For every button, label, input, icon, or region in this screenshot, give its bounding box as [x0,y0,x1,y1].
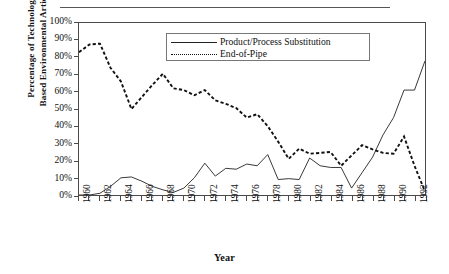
x-tick-label: 1962 [103,184,113,203]
x-tick-mark [99,196,100,201]
x-tick-mark [288,196,289,201]
dotted-line-key-icon [171,54,217,55]
x-tick-label: 1964 [124,184,134,203]
x-tick-mark [267,196,268,201]
solid-line-key-icon [171,42,217,43]
x-tick-mark [141,196,142,201]
x-tick-label: 1978 [272,184,282,203]
legend-label-end-of-pipe: End-of-Pipe [220,48,267,60]
x-tick-mark [183,196,184,201]
legend-entry-product-process: Product/Process Substitution [171,36,365,48]
x-tick-label: 1974 [230,184,240,203]
x-tick-label: 1984 [335,184,345,203]
x-tick-label: 1992 [419,184,429,203]
x-tick-label: 1970 [187,184,197,203]
x-axis-title: Year [0,252,449,263]
legend-label-product-process: Product/Process Substitution [220,36,331,48]
x-tick-mark [373,196,374,201]
x-tick-mark [310,196,311,201]
x-tick-label: 1966 [145,184,155,203]
x-tick-mark [120,196,121,201]
x-tick-mark [78,196,79,201]
x-tick-mark [352,196,353,201]
x-tick-label: 1968 [166,184,176,203]
legend-entry-end-of-pipe: End-of-Pipe [171,48,365,60]
x-tick-mark [415,196,416,201]
x-tick-label: 1988 [377,184,387,203]
chart-legend: Product/Process Substitution End-of-Pipe [166,33,370,61]
x-tick-mark [162,196,163,201]
x-tick-label: 1972 [209,184,219,203]
x-tick-label: 1960 [82,184,92,203]
x-tick-mark [394,196,395,201]
x-tick-label: 1986 [356,184,366,203]
x-tick-label: 1990 [398,184,408,203]
x-tick-mark [331,196,332,201]
x-tick-label: 1982 [314,184,324,203]
x-tick-label: 1980 [293,184,303,203]
chart-figure: Percentage of Technology Based Environme… [0,0,449,274]
x-tick-mark [225,196,226,201]
x-tick-label: 1976 [251,184,261,203]
x-tick-mark [204,196,205,201]
x-tick-mark [246,196,247,201]
